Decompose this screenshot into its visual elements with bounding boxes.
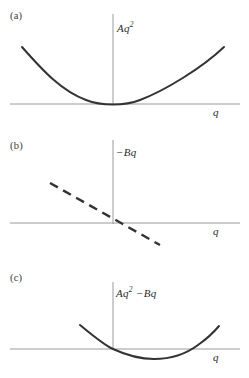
y-axis-label-a-main: Aq — [117, 22, 130, 34]
y-axis-label-b: −Bq — [116, 146, 137, 158]
figure-container: (a) Aq2 q (b) −Bq q (c) Aq2 −Bq q — [0, 0, 249, 378]
y-axis-label-c-suffix: −Bq — [133, 287, 157, 299]
parabola-curve-c — [80, 325, 219, 359]
panel-label-c: (c) — [10, 272, 22, 283]
panel-c: (c) Aq2 −Bq q — [0, 252, 249, 378]
y-axis-label-c: Aq2 −Bq — [116, 285, 156, 299]
parabola-curve-a — [22, 47, 224, 105]
x-axis-label-c: q — [213, 351, 219, 363]
y-axis-label-a-exponent: 2 — [130, 20, 134, 29]
panel-a: (a) Aq2 q — [0, 0, 249, 126]
x-axis-label-b: q — [213, 225, 219, 237]
y-axis-label-c-main: Aq — [116, 287, 129, 299]
panel-a-plot — [0, 0, 249, 126]
y-axis-label-a: Aq2 — [117, 20, 134, 34]
panel-label-b: (b) — [10, 140, 23, 151]
panel-c-plot — [0, 252, 249, 378]
dashed-line-b — [50, 183, 160, 245]
x-axis-label-a: q — [213, 106, 219, 118]
panel-b-plot — [0, 126, 249, 252]
panel-label-a: (a) — [10, 10, 22, 21]
panel-b: (b) −Bq q — [0, 126, 249, 252]
